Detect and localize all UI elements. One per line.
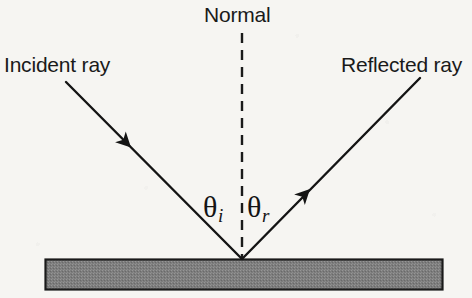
theta-i-symbol: θ <box>203 190 217 223</box>
reflected-ray-line <box>242 78 420 259</box>
theta-r-subscript: r <box>261 205 269 226</box>
incident-ray-line <box>66 82 242 259</box>
mirror-surface <box>46 260 443 290</box>
reflected-ray-label: Reflected ray <box>341 54 462 75</box>
angle-of-reflection-label: θr <box>247 192 269 225</box>
normal-label: Normal <box>204 4 270 25</box>
reflection-diagram: Normal Incident ray Reflected ray θi θr <box>0 0 472 298</box>
mirror-bar <box>46 260 443 290</box>
reflected-ray <box>242 78 420 259</box>
theta-r-symbol: θ <box>247 190 261 223</box>
theta-i-subscript: i <box>217 205 223 226</box>
diagram-canvas <box>0 0 472 298</box>
incident-ray <box>66 82 242 259</box>
incident-ray-label: Incident ray <box>4 54 110 75</box>
angle-of-incidence-label: θi <box>203 192 223 225</box>
